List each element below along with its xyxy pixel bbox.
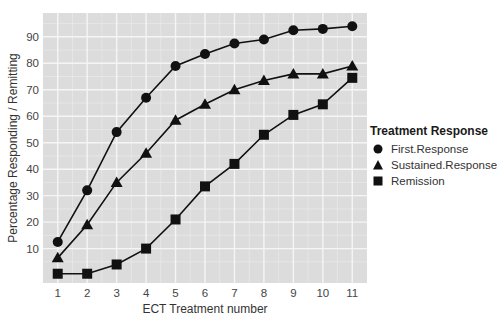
data-point bbox=[318, 99, 328, 109]
legend-title: Treatment Response bbox=[370, 124, 497, 138]
x-tick-label: 1 bbox=[55, 287, 61, 299]
y-tick-label: 60 bbox=[26, 110, 39, 122]
circle-marker-icon bbox=[373, 144, 383, 154]
data-point bbox=[347, 73, 357, 83]
y-tick-label: 80 bbox=[26, 57, 39, 69]
data-point bbox=[53, 269, 63, 279]
x-axis-label: ECT Treatment number bbox=[142, 302, 267, 316]
data-point bbox=[229, 38, 239, 48]
data-point bbox=[347, 21, 357, 31]
square-marker-icon bbox=[373, 176, 383, 186]
data-point bbox=[82, 269, 92, 279]
legend-label: Remission bbox=[391, 175, 445, 187]
data-point bbox=[200, 49, 210, 59]
data-point bbox=[318, 24, 328, 34]
y-tick-label: 70 bbox=[26, 84, 39, 96]
x-tick-label: 7 bbox=[231, 287, 237, 299]
legend-item-first-response: First.Response bbox=[370, 141, 497, 157]
data-point bbox=[171, 214, 181, 224]
y-tick-label: 90 bbox=[26, 31, 39, 43]
data-point bbox=[200, 181, 210, 191]
data-point bbox=[112, 259, 122, 269]
triangle-marker-icon bbox=[373, 160, 383, 170]
x-tick-label: 5 bbox=[172, 287, 178, 299]
x-tick-label: 9 bbox=[290, 287, 296, 299]
legend-label: First.Response bbox=[391, 143, 468, 155]
x-tick-label: 2 bbox=[84, 287, 90, 299]
legend-item-remission: Remission bbox=[370, 173, 497, 189]
y-axis-ticks: 102030405060708090 bbox=[26, 31, 39, 255]
y-tick-label: 40 bbox=[26, 163, 39, 175]
y-tick-label: 20 bbox=[26, 216, 39, 228]
y-tick-label: 10 bbox=[26, 243, 39, 255]
legend-label: Sustained.Response bbox=[391, 159, 497, 171]
x-tick-label: 6 bbox=[202, 287, 208, 299]
data-point bbox=[141, 244, 151, 254]
data-point bbox=[288, 110, 298, 120]
y-axis-label: Percentage Responding / Remitting bbox=[6, 53, 20, 242]
y-tick-label: 50 bbox=[26, 137, 39, 149]
x-tick-label: 8 bbox=[261, 287, 267, 299]
legend-item-sustained-response: Sustained.Response bbox=[370, 157, 497, 173]
data-point bbox=[53, 237, 63, 247]
x-tick-label: 10 bbox=[316, 287, 329, 299]
legend: Treatment Response First.Response Sustai… bbox=[370, 124, 497, 189]
x-tick-label: 3 bbox=[113, 287, 119, 299]
data-point bbox=[112, 127, 122, 137]
data-point bbox=[259, 130, 269, 140]
x-axis-ticks: 1234567891011 bbox=[55, 287, 359, 299]
data-point bbox=[259, 34, 269, 44]
data-point bbox=[141, 93, 151, 103]
data-point bbox=[171, 61, 181, 71]
y-tick-label: 30 bbox=[26, 190, 39, 202]
data-point bbox=[229, 159, 239, 169]
data-point bbox=[82, 185, 92, 195]
x-tick-label: 11 bbox=[346, 287, 358, 299]
x-tick-label: 4 bbox=[143, 287, 150, 299]
data-point bbox=[288, 25, 298, 35]
